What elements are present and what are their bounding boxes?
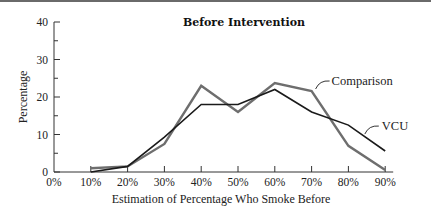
legend-label-vcu: VCU [382, 119, 408, 133]
y-axis: 010203040 [37, 16, 61, 178]
x-axis-title: Estimation of Percentage Who Smoke Befor… [112, 192, 331, 206]
line-chart: Before Intervention 010203040 0%10%20%30… [0, 0, 431, 216]
legend-labels: ComparisonVCU [316, 74, 409, 134]
x-tick-label: 80% [338, 176, 360, 188]
x-tick-label: 90% [375, 176, 397, 188]
x-tick-label: 10% [80, 176, 102, 188]
x-tick-label: 70% [301, 176, 323, 188]
series-line-comparison [91, 83, 385, 170]
y-tick-label: 10 [37, 129, 49, 141]
series-layer [91, 83, 385, 172]
y-tick-label: 30 [37, 54, 49, 66]
x-tick-label: 40% [191, 176, 213, 188]
x-tick-label: 60% [264, 176, 286, 188]
legend-label-comparison: Comparison [332, 74, 394, 88]
y-tick-label: 20 [37, 91, 49, 103]
x-tick-label: 50% [227, 176, 249, 188]
x-tick-label: 0% [46, 176, 62, 188]
x-tick-label: 20% [117, 176, 139, 188]
y-axis-title: Percentage [16, 71, 30, 124]
x-tick-label: 30% [154, 176, 176, 188]
chart-title: Before Intervention [183, 16, 305, 29]
series-line-vcu [91, 90, 385, 173]
x-axis: 0%10%20%30%40%50%60%70%80%90% [46, 166, 396, 188]
y-tick-label: 40 [37, 16, 49, 28]
